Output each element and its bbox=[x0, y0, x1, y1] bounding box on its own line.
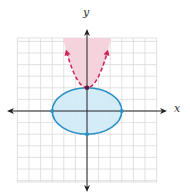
y-axis-label: y bbox=[83, 7, 89, 18]
x-axis-label: x bbox=[174, 103, 180, 114]
parabola-vertex-point bbox=[85, 86, 89, 90]
ellipse-point bbox=[120, 109, 124, 113]
ellipse-point bbox=[85, 132, 89, 136]
coordinate-graph bbox=[0, 0, 190, 196]
ellipse-point bbox=[50, 109, 54, 113]
axes bbox=[7, 29, 167, 192]
